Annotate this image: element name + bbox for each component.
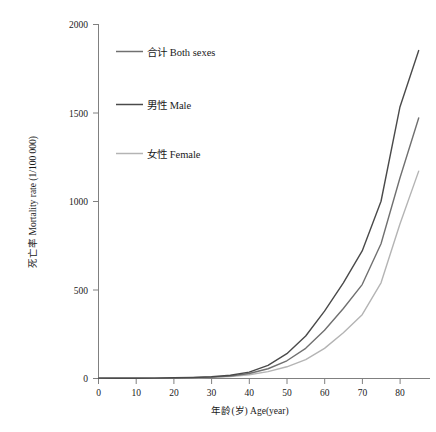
x-tick-label: 40 bbox=[245, 388, 255, 398]
legend-label: 男性 Male bbox=[147, 99, 192, 111]
y-tick-label: 1000 bbox=[69, 197, 88, 207]
y-tick-label: 1500 bbox=[69, 109, 88, 119]
mortality-rate-by-age-line-chart: 死亡率 Mortality rate (1/100 000) 2000 1500… bbox=[0, 0, 436, 432]
x-tick-label: 80 bbox=[395, 388, 405, 398]
y-axis-title: 死亡率 Mortality rate (1/100 000) bbox=[27, 136, 39, 268]
x-tick-label: 30 bbox=[207, 388, 217, 398]
x-tick-label: 20 bbox=[169, 388, 179, 398]
y-tick-label: 2000 bbox=[69, 20, 88, 30]
x-tick-label: 60 bbox=[320, 388, 330, 398]
x-tick-label: 10 bbox=[131, 388, 141, 398]
legend-label: 合计 Both sexes bbox=[147, 46, 215, 58]
x-axis-title: 年龄(岁) Age(year) bbox=[211, 405, 288, 417]
chart-background bbox=[0, 0, 436, 432]
legend-label: 女性 Female bbox=[147, 148, 201, 160]
x-tick-label: 50 bbox=[282, 388, 292, 398]
y-tick-label: 500 bbox=[74, 286, 89, 296]
x-tick-label: 70 bbox=[358, 388, 368, 398]
x-tick-label: 0 bbox=[96, 388, 101, 398]
y-tick-label: 0 bbox=[83, 374, 88, 384]
